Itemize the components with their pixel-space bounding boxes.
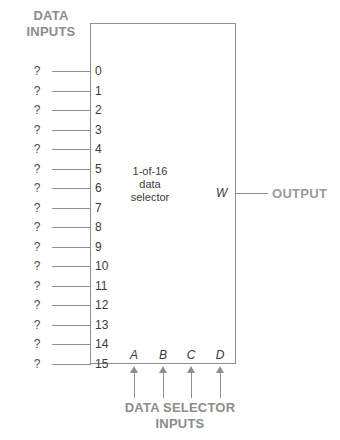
data-input-row: ?0 [0,63,130,79]
data-input-pin-number: 4 [95,141,102,157]
data-input-value: ? [30,122,44,138]
data-input-row: ?8 [0,219,130,235]
data-input-value: ? [30,219,44,235]
data-input-value: ? [30,356,44,372]
data-input-pin-number: 2 [95,102,102,118]
data-input-lead-line [52,247,91,248]
data-input-lead-line [52,286,91,287]
data-input-value: ? [30,83,44,99]
data-input-row: ?1 [0,83,130,99]
data-input-value: ? [30,258,44,274]
select-pin-arrow [216,366,225,398]
data-input-lead-line [52,130,91,131]
data-input-pin-number: 8 [95,219,102,235]
select-pin-label: B [156,347,170,363]
data-input-value: ? [30,336,44,352]
data-selector-inputs-caption: DATA SELECTOR INPUTS [108,400,252,432]
arrow-shaft [163,370,164,398]
data-input-row: ?12 [0,297,130,313]
arrow-shaft [220,370,221,398]
data-input-value: ? [30,278,44,294]
data-input-row: ?13 [0,317,130,333]
data-input-pin-number: 9 [95,239,102,255]
data-input-row: ?6 [0,180,130,196]
data-input-pin-number: 7 [95,200,102,216]
select-pin-arrow [187,366,196,398]
data-input-row: ?15 [0,356,130,372]
data-input-lead-line [52,364,91,365]
data-selector-diagram: DATA INPUTS 1-of-16 data selector ?0?1?2… [0,0,340,440]
data-input-row: ?3 [0,122,130,138]
data-input-row: ?10 [0,258,130,274]
data-input-pin-number: 13 [95,317,108,333]
output-lead-line [236,193,268,194]
data-input-value: ? [30,239,44,255]
data-input-lead-line [52,305,91,306]
data-input-lead-line [52,266,91,267]
data-input-lead-line [52,169,91,170]
data-input-pin-number: 0 [95,63,102,79]
data-input-pin-number: 12 [95,297,108,313]
data-input-row: ?7 [0,200,130,216]
output-pin-label: W [216,185,227,201]
data-input-lead-line [52,325,91,326]
data-input-value: ? [30,102,44,118]
select-pin-label: C [184,347,198,363]
data-input-row: ?5 [0,161,130,177]
data-input-row: ?14 [0,336,130,352]
data-input-lead-line [52,91,91,92]
data-inputs-heading: DATA INPUTS [14,8,88,40]
data-input-value: ? [30,180,44,196]
data-input-row: ?2 [0,102,130,118]
data-input-value: ? [30,141,44,157]
data-input-value: ? [30,297,44,313]
data-input-value: ? [30,200,44,216]
data-input-pin-number: 3 [95,122,102,138]
data-input-pin-number: 5 [95,161,102,177]
data-input-pin-number: 11 [95,278,107,294]
select-pin-label: D [213,347,227,363]
data-input-row: ?4 [0,141,130,157]
data-input-value: ? [30,63,44,79]
arrow-shaft [191,370,192,398]
select-pin-arrow [159,366,168,398]
data-input-row: ?11 [0,278,130,294]
data-input-pin-number: 14 [95,336,108,352]
data-input-lead-line [52,208,91,209]
data-input-pin-number: 15 [95,356,108,372]
data-input-lead-line [52,149,91,150]
data-input-lead-line [52,344,91,345]
output-label: OUTPUT [272,186,327,201]
data-input-lead-line [52,110,91,111]
data-input-lead-line [52,227,91,228]
data-input-pin-number: 10 [95,258,108,274]
data-input-lead-line [52,188,91,189]
data-input-row: ?9 [0,239,130,255]
data-input-lead-line [52,71,91,72]
data-input-pin-number: 6 [95,180,102,196]
data-input-value: ? [30,161,44,177]
data-input-value: ? [30,317,44,333]
select-pin-label: A [127,347,141,363]
arrow-shaft [134,370,135,398]
data-input-pin-number: 1 [95,83,102,99]
select-pin-arrow [130,366,139,398]
